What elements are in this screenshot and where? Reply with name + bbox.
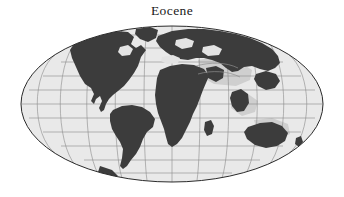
mollweide-map <box>0 0 344 197</box>
figure-container: Eocene <box>0 0 344 197</box>
